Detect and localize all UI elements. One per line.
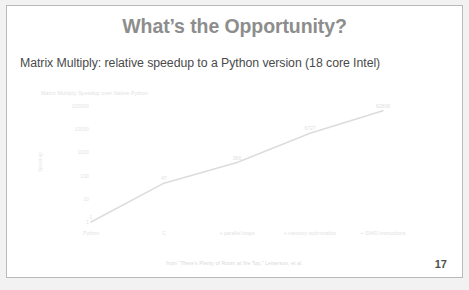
chart-point-label: 47 — [161, 175, 167, 181]
x-axis-tick-label: Python — [59, 230, 123, 237]
y-axis-tick-label: 10000 — [43, 126, 89, 132]
screenshot-canvas: What’s the Opportunity? Matrix Multiply:… — [0, 0, 469, 290]
chart-plot-area: 147366672762806 — [91, 106, 383, 222]
y-axis-tick-label: 1 — [43, 219, 89, 225]
y-axis-tick-label: 1000 — [43, 149, 89, 155]
slide-subtitle: Matrix Multiply: relative speedup to a P… — [20, 56, 380, 70]
chart-point-label: 62806 — [376, 103, 390, 109]
page-title: What’s the Opportunity? — [7, 15, 462, 38]
x-axis-tick-label: + SIMD instructions — [351, 230, 415, 237]
x-axis-tick-label: + memory optimization — [278, 230, 342, 237]
x-axis-tick-label: + parallel loops — [205, 230, 269, 237]
chart-point-label: 366 — [233, 155, 241, 161]
x-axis-tick-labels: PythonC+ parallel loops+ memory optimiza… — [91, 230, 383, 260]
source-attribution: from “There’s Plenty of Room at the Top,… — [7, 260, 462, 266]
chart-point-label: 1 — [90, 214, 93, 220]
y-axis-tick-label: 10 — [43, 196, 89, 202]
y-axis-tick-label: 100 — [43, 173, 89, 179]
page-number: 17 — [435, 258, 447, 270]
speedup-line-chart: Matrix Multiply Speedup over Native Pyth… — [33, 84, 393, 262]
chart-line-svg — [91, 106, 383, 222]
chart-data-line — [91, 111, 383, 222]
chart-point-label: 6727 — [304, 125, 315, 131]
y-axis-tick-label: 100000 — [43, 103, 89, 109]
presentation-slide: What’s the Opportunity? Matrix Multiply:… — [6, 5, 463, 278]
x-axis-tick-label: C — [132, 230, 196, 237]
